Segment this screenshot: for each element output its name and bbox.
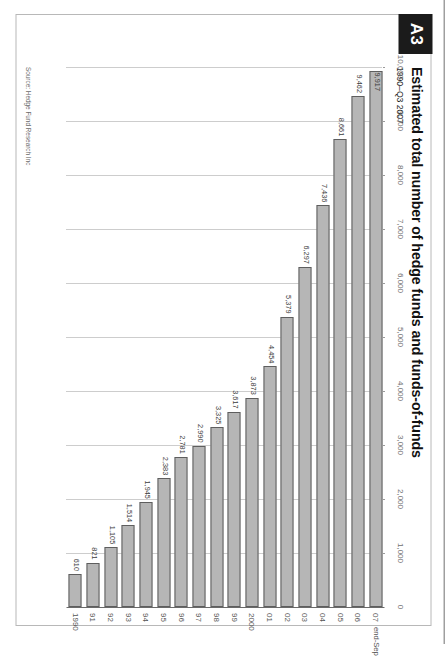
value-axis-tick-label: 7,000 xyxy=(395,219,404,239)
bar-98 xyxy=(210,427,223,607)
value-axis-tick-label: 5,000 xyxy=(395,327,404,347)
bar-value-label: 610 xyxy=(71,547,80,571)
bar-97 xyxy=(192,446,205,607)
category-label-04: 04 xyxy=(318,613,327,622)
bar-row: 3,325 xyxy=(210,67,223,607)
bar-row: 4,454 xyxy=(263,67,276,607)
bar-92 xyxy=(104,547,117,607)
category-label-98: 98 xyxy=(212,613,221,622)
bar-value-label: 4,454 xyxy=(266,339,275,363)
value-axis-tick-label: 4,000 xyxy=(395,381,404,401)
bar-value-label: 9,917 xyxy=(372,67,381,91)
value-axis-tick-label: 9,000 xyxy=(395,111,404,131)
category-label-05: 05 xyxy=(335,613,344,622)
bar-1990 xyxy=(68,574,81,607)
bar-row: 1,105 xyxy=(104,67,117,607)
category-label-95: 95 xyxy=(159,613,168,622)
category-label-06: 06 xyxy=(353,613,362,622)
chart-plot-area: 10,0009,0008,0007,0006,0005,0004,0003,00… xyxy=(66,67,384,607)
bar-row: 7,436 xyxy=(316,67,329,607)
value-axis-tick-label: 0 xyxy=(395,605,404,609)
value-axis-tick-label: 2,000 xyxy=(395,489,404,509)
bar-value-label: 1,514 xyxy=(124,498,133,522)
bar-row: 2,781 xyxy=(174,67,187,607)
category-label-93: 93 xyxy=(123,613,132,622)
bar-row: 5,379 xyxy=(280,67,293,607)
bar-value-label: 3,325 xyxy=(213,400,222,424)
bar-02 xyxy=(280,317,293,607)
bar-row: 2,990 xyxy=(192,67,205,607)
value-axis-tick-label: 3,000 xyxy=(395,435,404,455)
bar-row: 821 xyxy=(86,67,99,607)
value-axis-tick-label: 6,000 xyxy=(395,273,404,293)
bar-value-label: 3,617 xyxy=(230,385,239,409)
category-label-01: 01 xyxy=(265,613,274,622)
bar-value-label: 8,661 xyxy=(336,112,345,136)
bar-01 xyxy=(263,366,276,607)
bar-value-label: 2,383 xyxy=(160,451,169,475)
bar-row: 3,873 xyxy=(245,67,258,607)
category-label-91: 91 xyxy=(88,613,97,622)
bar-99 xyxy=(227,412,240,607)
bar-value-label: 3,873 xyxy=(248,371,257,395)
bar-value-label: 9,462 xyxy=(354,69,363,93)
value-axis-tick-label: 1,000 xyxy=(395,543,404,563)
bar-row: 2,383 xyxy=(157,67,170,607)
category-label-03: 03 xyxy=(300,613,309,622)
category-label-97: 97 xyxy=(194,613,203,622)
bar-07 xyxy=(369,71,382,607)
bar-value-label: 5,379 xyxy=(283,290,292,314)
figure-sheet: A3 Estimated total number of hedge funds… xyxy=(15,14,431,626)
bar-row: 9,462 xyxy=(351,67,364,607)
bar-94 xyxy=(139,502,152,607)
bar-03 xyxy=(298,267,311,607)
bar-value-label: 2,990 xyxy=(195,419,204,443)
category-label-07: 07 xyxy=(371,613,380,622)
bar-value-label: 1,945 xyxy=(142,475,151,499)
category-label-02: 02 xyxy=(282,613,291,622)
bar-05 xyxy=(333,139,346,607)
source-note: Source: Hedge Fund Research Inc xyxy=(24,67,31,165)
category-label-96: 96 xyxy=(176,613,185,622)
bar-row: 8,661 xyxy=(333,67,346,607)
category-label-99: 99 xyxy=(229,613,238,622)
bar-value-label: 6,297 xyxy=(301,240,310,264)
bar-row: 610 xyxy=(68,67,81,607)
value-axis-tick-label: 8,000 xyxy=(395,165,404,185)
category-label-2000: 2000 xyxy=(247,613,256,631)
bar-value-label: 821 xyxy=(89,536,98,560)
bar-row: 6,297 xyxy=(298,67,311,607)
gridline-0 xyxy=(66,607,384,608)
category-label-94: 94 xyxy=(141,613,150,622)
bar-04 xyxy=(316,205,329,607)
bar-91 xyxy=(86,563,99,607)
page-title: Estimated total number of hedge funds an… xyxy=(408,67,424,458)
bar-06 xyxy=(351,96,364,607)
figure-badge: A3 xyxy=(398,14,432,54)
category-label-92: 92 xyxy=(106,613,115,622)
bar-row: 1,945 xyxy=(139,67,152,607)
bar-value-label: 7,436 xyxy=(319,178,328,202)
bar-row: 1,514 xyxy=(121,67,134,607)
bar-2000 xyxy=(245,398,258,607)
bar-value-label: 1,105 xyxy=(107,520,116,544)
value-axis-tick-label: 10,000 xyxy=(395,55,404,79)
bar-96 xyxy=(174,457,187,607)
bar-row: 9,917 xyxy=(369,67,382,607)
bar-value-label: 2,781 xyxy=(177,430,186,454)
bar-95 xyxy=(157,478,170,607)
bar-93 xyxy=(121,525,134,607)
bar-row: 3,617 xyxy=(227,67,240,607)
category-label-1990: 1990 xyxy=(70,613,79,631)
axis-note-end-sep: end-Sep xyxy=(371,627,380,656)
